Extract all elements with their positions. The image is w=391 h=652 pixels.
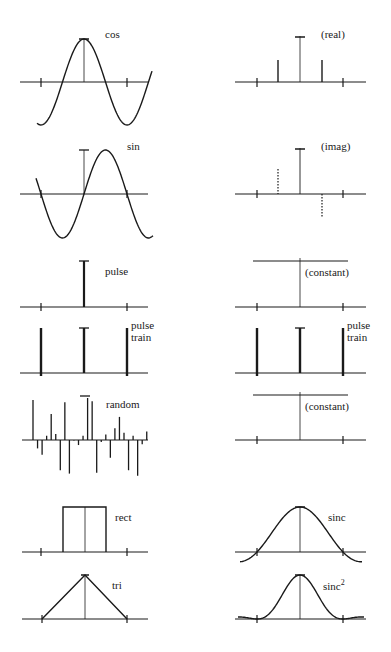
panel-pulse-train-spectrum: pulse train	[235, 319, 370, 376]
label-pulse-train-1: pulse	[347, 319, 370, 331]
rect-shape	[63, 507, 106, 552]
fourier-pairs-figure: cos (real) sin (imag) pulse	[0, 0, 391, 652]
panel-pulse-spectrum: (constant)	[235, 258, 366, 311]
label-random: random	[106, 398, 140, 410]
label-sinc2-base: sinc	[323, 580, 341, 592]
label-tri: tri	[112, 579, 122, 591]
label-imag: (imag)	[321, 140, 351, 153]
panel-random: random	[22, 396, 148, 476]
panel-rect: rect	[22, 507, 148, 556]
panel-sinc2: sinc2	[235, 575, 366, 623]
panel-cos-spectrum: (real)	[235, 28, 366, 87]
panel-pulse-train: pulse train	[20, 319, 154, 376]
label-sinc: sinc	[328, 511, 346, 523]
sinc2-curve	[238, 575, 364, 619]
label-cos: cos	[105, 28, 120, 40]
panel-cos: cos	[20, 28, 152, 125]
panel-sin-spectrum: (imag)	[235, 140, 366, 217]
panel-pulse: pulse	[20, 261, 148, 311]
label-real: (real)	[321, 28, 345, 41]
panel-sin: sin	[20, 140, 153, 238]
label-pulse-train-2: train	[131, 331, 152, 343]
label-constant: (constant)	[305, 266, 349, 279]
label-pulse-train-2: train	[347, 331, 368, 343]
label-pulse-train-1: pulse	[131, 319, 154, 331]
label-rect: rect	[115, 511, 131, 523]
label-sin: sin	[127, 140, 140, 152]
label-pulse: pulse	[105, 265, 128, 277]
label-sinc2: sinc2	[323, 578, 345, 592]
label-constant: (constant)	[305, 400, 349, 413]
panel-sinc: sinc	[235, 507, 366, 562]
panel-tri: tri	[22, 575, 148, 623]
label-sinc2-sup: 2	[341, 578, 345, 587]
panel-random-spectrum: (constant)	[235, 392, 366, 444]
